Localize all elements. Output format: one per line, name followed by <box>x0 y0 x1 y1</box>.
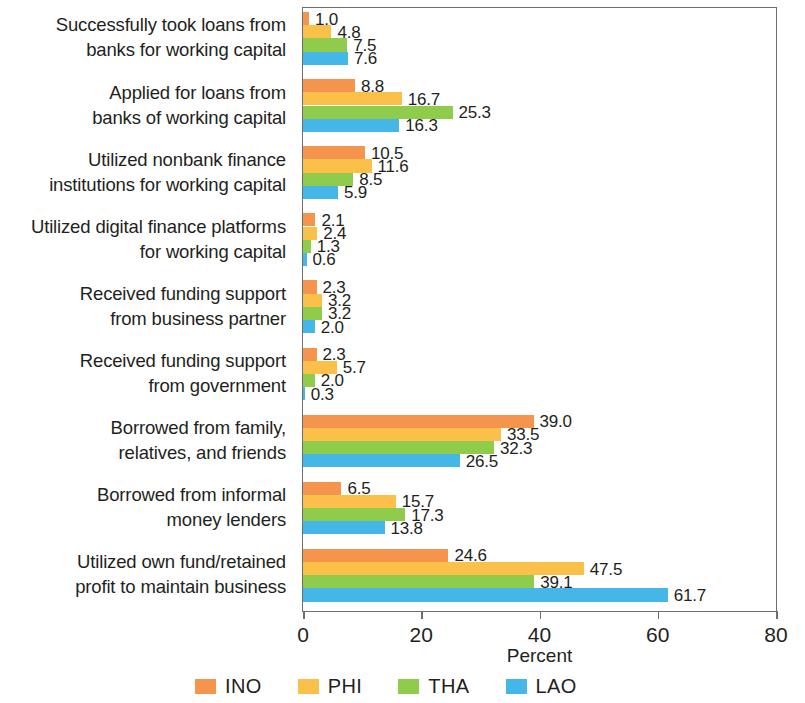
x-axis-tick-label: 40 <box>528 623 551 647</box>
category-label-line: Successfully took loans from <box>0 12 286 37</box>
category-label-line: from government <box>0 373 286 398</box>
bar-row: 26.5 <box>303 454 776 467</box>
category-label: Borrowed from informalmoney lenders <box>0 482 286 532</box>
bar-row: 1.0 <box>303 12 776 25</box>
category-label-line: Utilized nonbank finance <box>0 147 286 172</box>
bar-ino <box>303 146 365 159</box>
bar-row: 0.3 <box>303 387 776 400</box>
bar-phi <box>303 495 396 508</box>
category-label-line: Applied for loans from <box>0 80 286 105</box>
bar-row: 3.2 <box>303 294 776 307</box>
bar-row: 2.1 <box>303 213 776 226</box>
x-axis: 020406080 <box>302 611 777 612</box>
bar-row: 2.0 <box>303 374 776 387</box>
bar-ino <box>303 549 448 562</box>
category-label-line: Received funding support <box>0 281 286 306</box>
bar-row: 15.7 <box>303 495 776 508</box>
bar-phi <box>303 25 331 38</box>
bar-row: 39.0 <box>303 415 776 428</box>
category-label-line: for working capital <box>0 239 286 264</box>
category-label: Successfully took loans frombanks for wo… <box>0 12 286 62</box>
legend-label: LAO <box>536 676 577 696</box>
legend-swatch-icon <box>195 679 216 694</box>
bar-value-label: 7.6 <box>348 50 377 67</box>
category-label-line: from business partner <box>0 306 286 331</box>
bar-value-label: 5.9 <box>338 184 367 201</box>
bar-row: 32.3 <box>303 441 776 454</box>
legend-swatch-icon <box>298 679 319 694</box>
category-label-line: Utilized digital finance platforms <box>0 214 286 239</box>
category-label-line: Borrowed from family, <box>0 415 286 440</box>
x-axis-tick <box>658 611 660 619</box>
bar-value-label: 0.3 <box>305 385 334 402</box>
legend-swatch-icon <box>506 679 527 694</box>
bar-phi <box>303 92 402 105</box>
category-label-line: Utilized own fund/retained <box>0 549 286 574</box>
bar-lao <box>303 186 338 199</box>
bar-lao <box>303 119 399 132</box>
horizontal-bar-chart: Successfully took loans frombanks for wo… <box>0 0 805 703</box>
bar-row: 3.2 <box>303 307 776 320</box>
category-label-line: Borrowed from informal <box>0 482 286 507</box>
bar-ino <box>303 213 315 226</box>
category-label: Utilized own fund/retainedprofit to main… <box>0 549 286 599</box>
category-label-line: banks of working capital <box>0 105 286 130</box>
bar-lao <box>303 454 460 467</box>
x-axis-tick <box>540 611 542 619</box>
bar-tha <box>303 38 347 51</box>
bar-row: 5.7 <box>303 361 776 374</box>
bar-row: 16.7 <box>303 92 776 105</box>
x-axis-tick-label: 60 <box>646 623 669 647</box>
bar-row: 5.9 <box>303 186 776 199</box>
bar-ino <box>303 280 317 293</box>
bar-ino <box>303 482 341 495</box>
x-axis-tick <box>303 611 305 619</box>
bar-row: 17.3 <box>303 508 776 521</box>
legend-swatch-icon <box>398 679 419 694</box>
bar-value-label: 0.6 <box>307 251 336 268</box>
legend-label: INO <box>225 676 262 696</box>
category-label: Utilized digital finance platformsfor wo… <box>0 214 286 264</box>
bar-lao <box>303 521 385 534</box>
bar-row: 61.7 <box>303 588 776 601</box>
x-axis-tick <box>776 611 778 619</box>
bar-ino <box>303 79 355 92</box>
bar-row: 7.6 <box>303 52 776 65</box>
legend-item-tha[interactable]: THA <box>398 676 469 696</box>
bar-row: 8.8 <box>303 79 776 92</box>
x-axis-tick-label: 80 <box>764 623 787 647</box>
bar-row: 25.3 <box>303 106 776 119</box>
bar-value-label: 13.8 <box>385 519 423 536</box>
category-axis-labels: Successfully took loans frombanks for wo… <box>0 7 296 612</box>
bar-row: 2.3 <box>303 348 776 361</box>
category-label-line: profit to maintain business <box>0 574 286 599</box>
x-axis-title: Percent <box>302 645 777 667</box>
bar-row: 2.0 <box>303 320 776 333</box>
bar-row: 2.4 <box>303 227 776 240</box>
bar-row: 33.5 <box>303 428 776 441</box>
bar-row: 2.3 <box>303 280 776 293</box>
bar-lao <box>303 588 668 601</box>
x-axis-tick-label: 0 <box>297 623 309 647</box>
legend-item-ino[interactable]: INO <box>195 676 262 696</box>
category-label: Received funding supportfrom business pa… <box>0 281 286 331</box>
bar-row: 13.8 <box>303 521 776 534</box>
chart-legend: INOPHITHALAO <box>195 672 615 700</box>
category-label-line: institutions for working capital <box>0 172 286 197</box>
bar-value-label: 61.7 <box>668 586 706 603</box>
bar-row: 24.6 <box>303 549 776 562</box>
bar-tha <box>303 575 534 588</box>
bar-row: 8.5 <box>303 173 776 186</box>
category-label-line: relatives, and friends <box>0 440 286 465</box>
category-label: Applied for loans frombanks of working c… <box>0 80 286 130</box>
bar-phi <box>303 428 501 441</box>
legend-item-phi[interactable]: PHI <box>298 676 363 696</box>
plot-area: 1.04.87.57.68.816.725.316.310.511.68.55.… <box>303 8 776 612</box>
bar-row: 0.6 <box>303 253 776 266</box>
category-label: Borrowed from family,relatives, and frie… <box>0 415 286 465</box>
legend-item-lao[interactable]: LAO <box>506 676 577 696</box>
bar-row: 16.3 <box>303 119 776 132</box>
bar-row: 1.3 <box>303 240 776 253</box>
category-label-line: Received funding support <box>0 348 286 373</box>
legend-label: PHI <box>328 676 363 696</box>
